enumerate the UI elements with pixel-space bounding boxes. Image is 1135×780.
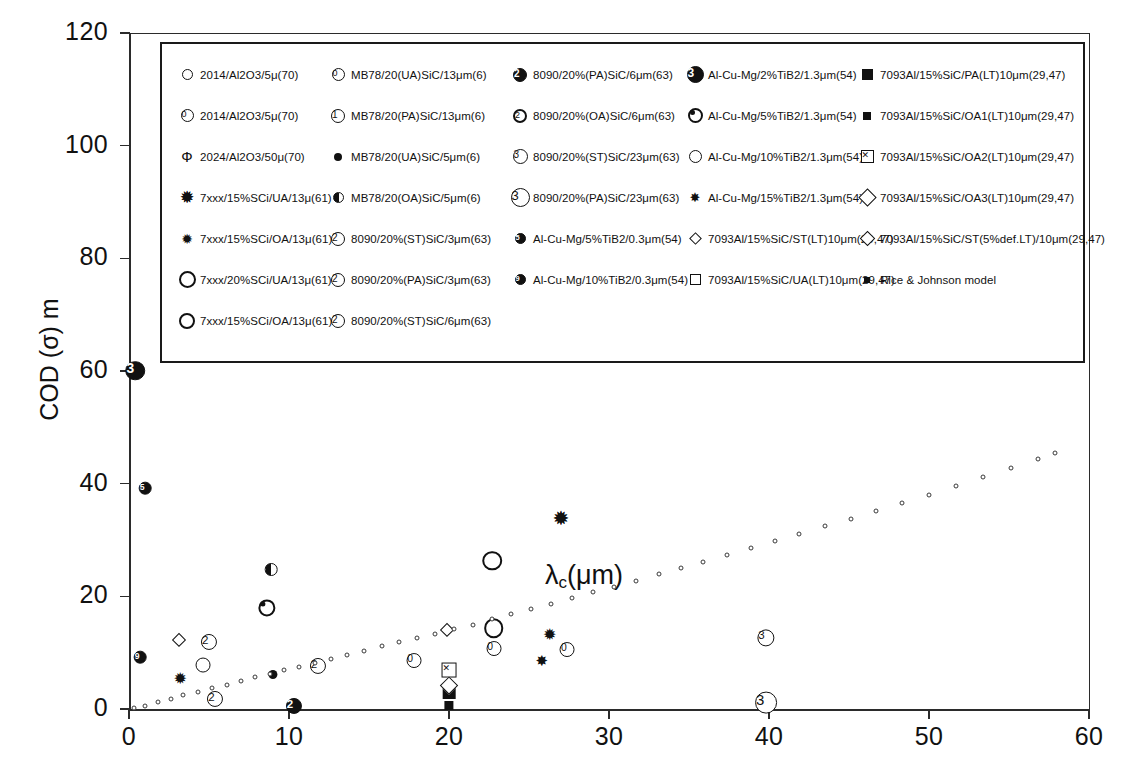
marker-starburst-filled-icon: ✹ [543,626,557,642]
legend-column-1: 2014/Al2O3/5μ(70)02014/Al2O3/5μ(70)Ф2024… [174,54,332,341]
legend-entry[interactable]: 7xxx/20%SCi/UA/13μ(61) [174,259,332,300]
legend-label: Al-Cu-Mg/2%TiB2/1.3μm(54) [708,69,857,81]
legend-entry[interactable]: ✕7093Al/15%SiC/OA2(LT)10μm(29,47) [854,136,1105,177]
data-point-marker [484,618,504,642]
legend-entry[interactable]: 28090/20%(ST)SiC/6μm(63) [325,300,491,341]
marker-bullseye-icon [258,599,275,616]
legend-entry[interactable]: 38090/20%(ST)SiC/23μm(63) [507,136,688,177]
data-point-model-dot [823,524,828,529]
data-point-model-dot [296,664,301,669]
legend-entry[interactable]: 7093Al/15%SiC/OA3(LT)10μm(29,47) [854,177,1105,218]
marker-circled-two-icon: 2 [331,232,345,246]
legend-entry[interactable]: 5Al-Cu-Mg/5%TiB2/0.3μm(54) [507,218,688,259]
x-tick-label: 20 [414,722,484,751]
legend-symbol: 2 [325,226,351,252]
marker-circled-three-large-icon: 3 [511,188,530,207]
legend-entry[interactable]: 2014/Al2O3/5μ(70) [174,54,332,95]
legend-entry[interactable]: Rice & Johnson model [854,259,1105,300]
legend-entry[interactable]: 7093Al/15%SiC/PA(LT)10μm(29,47) [854,54,1105,95]
x-tick-label: 30 [574,722,644,751]
marker-circled-two-icon: 2 [331,314,345,328]
x-tick-mark [1088,709,1090,719]
data-point-model-dot [611,584,616,589]
legend-symbol [325,185,351,211]
legend-entry[interactable]: 0MB78/20(UA)SiC/13μm(6) [325,54,491,95]
data-point-model-dot [328,656,333,661]
legend-label: 8090/20%(ST)SiC/6μm(63) [351,315,491,327]
marker-small-filled-numbered-icon: 9 [515,274,526,285]
data-point-marker: 0 [406,648,421,668]
legend-label: 7xxx/15%SCi/OA/13μ(61) [200,233,332,245]
legend-label: MB78/20(UA)SiC/5μm(6) [351,151,480,163]
legend-entry[interactable]: 7093Al/15%SiC/OA1(LT)10μm(29,47) [854,95,1105,136]
legend-label: MB78/20(UA)SiC/13μm(6) [351,69,487,81]
data-point-model-dot [344,652,349,657]
legend-label: 8090/20%(ST)SiC/23μm(63) [533,151,680,163]
legend-entry[interactable]: 38090/20%(PA)SiC/23μm(63) [507,177,688,218]
legend-entry[interactable]: ✹7xxx/15%SCi/UA/13μ(61) [174,177,332,218]
legend-symbol: ✹ [174,185,200,211]
legend-entry[interactable]: 28090/20%(OA)SiC/6μm(63) [507,95,688,136]
legend-symbol: 2 [325,308,351,334]
legend-entry[interactable]: 7xxx/15%SCi/OA/13μ(61) [174,300,332,341]
legend-entry[interactable]: 28090/20%(PA)SiC/3μm(63) [325,259,491,300]
marker-starburst-open-icon: ✹ [180,189,194,206]
marker-ring-dot-icon [689,150,702,163]
legend-entry[interactable]: MB78/20(UA)SiC/5μm(6) [325,136,491,177]
legend-entry[interactable]: Ф2024/Al2O3/50μ(70) [174,136,332,177]
data-point-model-dot [131,706,136,711]
legend-symbol [174,62,200,88]
x-tick-label: 10 [254,722,324,751]
legend-label: 7093Al/15%SiC/OA3(LT)10μm(29,47) [880,192,1074,204]
legend-entry[interactable]: MB78/20(OA)SiC/5μm(6) [325,177,491,218]
y-tick-label: 80 [34,242,108,271]
legend-entry[interactable]: 28090/20%(ST)SiC/3μm(63) [325,218,491,259]
legend-label: 7xxx/15%SCi/UA/13μ(61) [200,192,332,204]
marker-circled-zero-icon: 0 [406,653,421,668]
legend-label: 7093Al/15%SiC/PA(LT)10μm(29,47) [880,69,1065,81]
legend-symbol [682,144,708,170]
legend-symbol: ✹ [174,226,200,252]
legend-symbol: 3 [507,144,533,170]
y-tick-mark [120,483,130,485]
marker-circled-two-icon: 2 [207,691,223,707]
y-tick-label: 60 [34,355,108,384]
legend-symbol [682,267,708,293]
legend-entry[interactable]: 9Al-Cu-Mg/10%TiB2/0.3μm(54) [507,259,688,300]
data-point-model-dot [253,675,258,680]
marker-phi-icon: Ф [181,149,192,164]
marker-diamond-small-icon [689,232,702,245]
data-point-model-dot [471,622,476,627]
legend-entry[interactable]: ✹7xxx/15%SCi/OA/13μ(61) [174,218,332,259]
legend-symbol [682,103,708,129]
data-point-model-dot [168,696,173,701]
legend-entry[interactable]: 28090/20%(PA)SiC/6μm(63) [507,54,688,95]
y-tick-label: 0 [34,693,108,722]
legend-symbol: 2 [325,267,351,293]
marker-diamond-medium-icon [440,676,458,694]
data-point-model-dot [362,648,367,653]
marker-circled-two-filled-icon: 2 [286,698,302,714]
legend-entry[interactable]: 7093Al/15%SiC/ST(5%def.LT)/10μm(29,47) [854,218,1105,259]
legend-entry[interactable]: 1MB78/20(PA)SiC/13μm(6) [325,95,491,136]
x-tick-mark [608,709,610,719]
data-point-marker: 5 [139,476,152,495]
legend-symbol: 1 [325,103,351,129]
y-tick-mark [120,258,130,260]
legend-label: Al-Cu-Mg/15%TiB2/1.3μm(54) [708,192,863,204]
lambda-symbol: λ [545,560,559,590]
legend-symbol [854,103,880,129]
data-point-marker [444,696,453,714]
data-point-model-dot [415,636,420,641]
legend-symbol: 0 [174,103,200,129]
data-point-model-dot [549,601,554,606]
marker-small-filled-numbered-icon: 9 [134,651,147,664]
data-point-model-dot [1008,466,1013,471]
data-point-marker [482,551,502,575]
marker-circled-two-icon: 2 [201,634,217,650]
legend-label: MB78/20(OA)SiC/5μm(6) [351,192,481,204]
x-tick-mark [928,709,930,719]
data-point-model-dot [634,578,639,583]
legend-entry[interactable]: 02014/Al2O3/5μ(70) [174,95,332,136]
legend-label: 8090/20%(OA)SiC/6μm(63) [533,110,675,122]
